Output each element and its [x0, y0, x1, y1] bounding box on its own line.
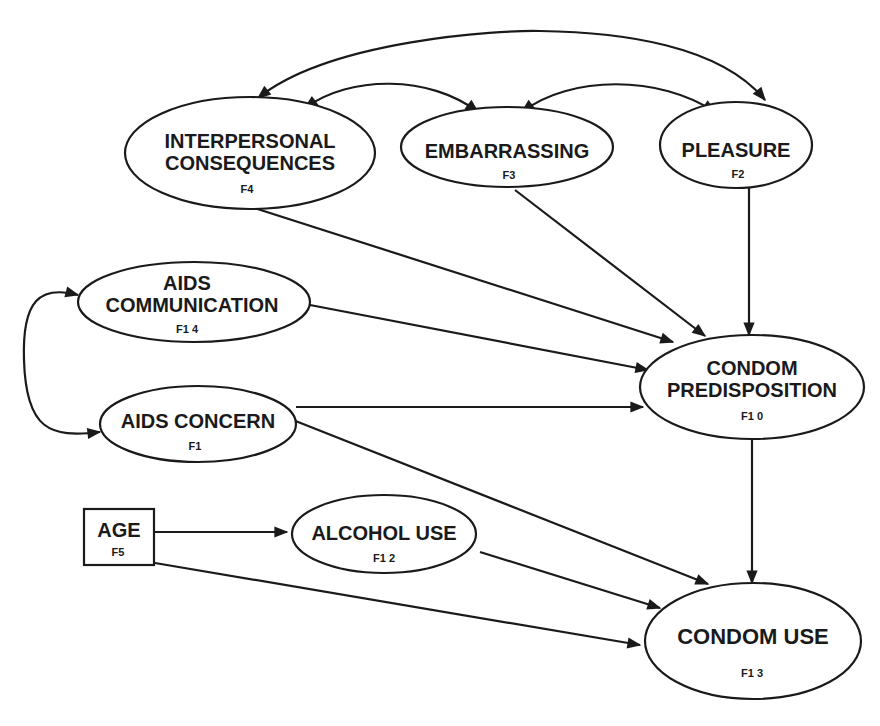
node-code: F1 2	[373, 552, 395, 564]
node-condom-predisposition: CONDOM PREDISPOSITION F1 0	[640, 335, 864, 439]
edge-interpersonal-embarrassing	[305, 84, 478, 112]
node-code: F3	[503, 169, 516, 181]
node-label: PREDISPOSITION	[667, 379, 837, 401]
node-label: COMMUNICATION	[106, 294, 279, 316]
node-aids-communication: AIDS COMMUNICATION F1 4	[78, 262, 310, 342]
node-label: CONDOM USE	[677, 624, 829, 649]
node-code: F5	[112, 546, 125, 558]
node-label: AIDS	[163, 272, 211, 294]
node-label: CONDOM	[706, 357, 797, 379]
node-code: F1 4	[176, 323, 199, 335]
edge-interpersonal-pleasure	[258, 31, 765, 100]
node-age: AGE F5	[84, 509, 154, 565]
node-label: PLEASURE	[682, 139, 791, 161]
node-aids-concern: AIDS CONCERN F1	[100, 386, 296, 462]
node-label: EMBARRASSING	[425, 140, 589, 162]
edge-interpersonal-predisposition	[248, 206, 673, 342]
node-condom-use: CONDOM USE F1 3	[645, 583, 861, 699]
edge-alcohol-condom-use	[480, 552, 660, 608]
node-alcohol-use: ALCOHOL USE F1 2	[292, 495, 476, 573]
node-label: AGE	[97, 519, 140, 541]
node-pleasure: PLEASURE F2	[660, 102, 812, 188]
node-code: F2	[732, 168, 745, 180]
node-label: ALCOHOL USE	[311, 522, 456, 544]
edge-embarrassing-predisposition	[515, 190, 705, 336]
node-interpersonal-consequences: INTERPERSONAL CONSEQUENCES F4	[125, 97, 375, 209]
node-code: F4	[241, 183, 255, 195]
edge-aids-communication-predisposition	[310, 305, 648, 370]
edge-embarrassing-pleasure	[522, 84, 715, 112]
node-label: CONSEQUENCES	[165, 152, 335, 174]
node-label: INTERPERSONAL	[164, 130, 335, 152]
node-code: F1	[189, 440, 202, 452]
node-label: AIDS CONCERN	[121, 410, 275, 432]
edge-age-condom-use	[155, 563, 640, 645]
path-diagram: INTERPERSONAL CONSEQUENCES F4 EMBARRASSI…	[0, 0, 880, 726]
node-code: F1 3	[741, 667, 763, 679]
node-code: F1 0	[741, 410, 763, 422]
node-embarrassing: EMBARRASSING F3	[401, 107, 613, 187]
